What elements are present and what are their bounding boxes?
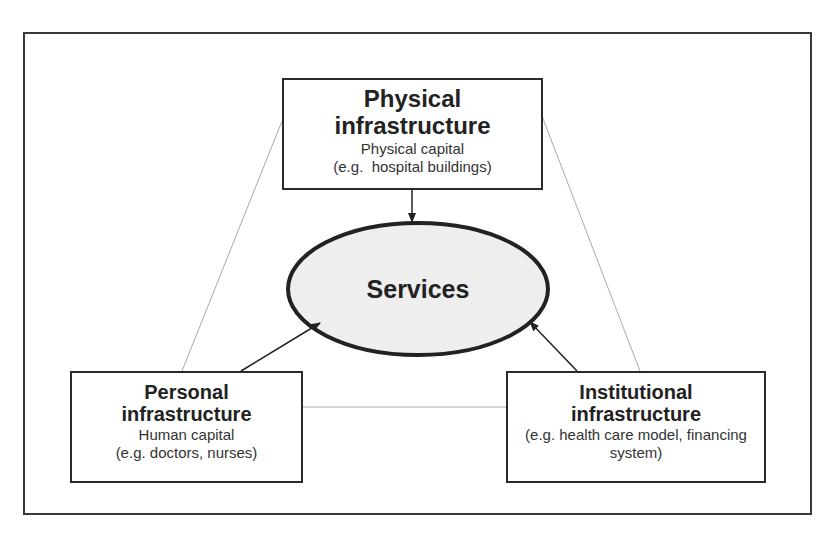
institutional-title-line2: infrastructure [508, 403, 764, 425]
thin-link-physical-institutional [542, 116, 640, 371]
thin-link-physical-personal [182, 121, 282, 371]
institutional-infrastructure-box: Institutional infrastructure (e.g. healt… [506, 371, 766, 483]
physical-title-line1: Physical [284, 86, 541, 113]
personal-subtitle: Human capital [72, 426, 301, 444]
physical-example: (e.g. hospital buildings) [284, 158, 541, 176]
personal-example: (e.g. doctors, nurses) [72, 444, 301, 462]
physical-infrastructure-box: Physical infrastructure Physical capital… [282, 78, 543, 190]
services-label: Services [288, 223, 548, 355]
institutional-example-line1: (e.g. health care model, financing [508, 426, 764, 444]
institutional-example-line2: system) [508, 444, 764, 462]
personal-title-line1: Personal [72, 381, 301, 403]
personal-title-line2: infrastructure [72, 403, 301, 425]
physical-title-line2: infrastructure [284, 113, 541, 140]
institutional-title-line1: Institutional [508, 381, 764, 403]
personal-infrastructure-box: Personal infrastructure Human capital (e… [70, 371, 303, 483]
physical-subtitle: Physical capital [284, 140, 541, 158]
